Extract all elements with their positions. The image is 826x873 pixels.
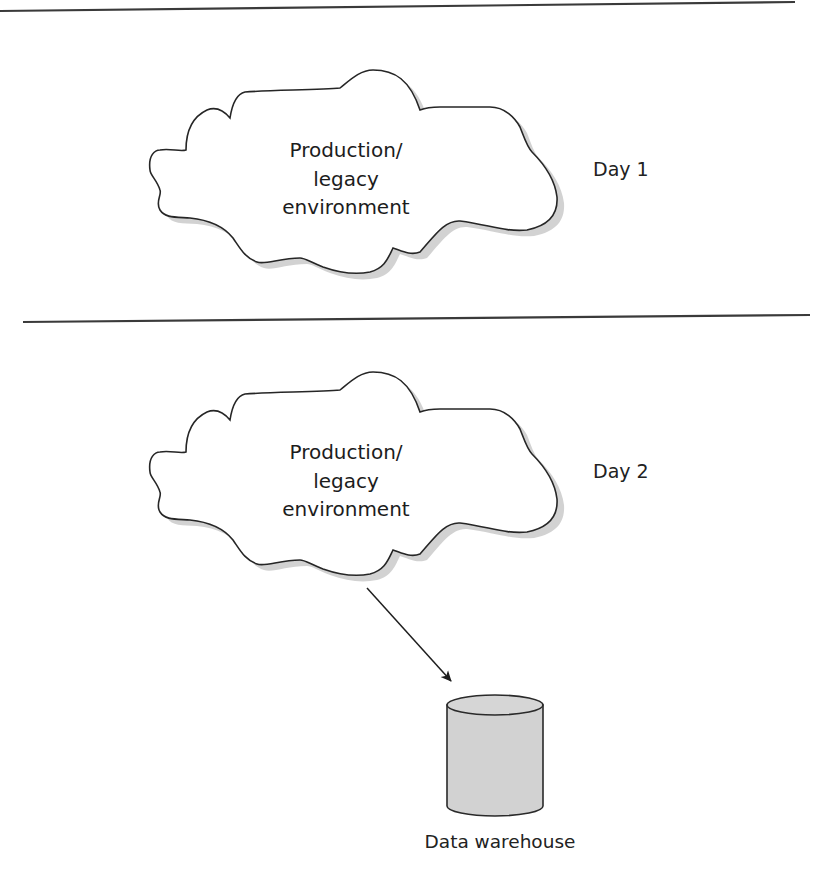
top-divider-line: [0, 2, 795, 11]
day-2-label: Day 2: [593, 460, 649, 482]
cloud-label-line: legacy: [246, 165, 446, 194]
cloud-label-line: Production/: [246, 136, 446, 165]
cloud-label-line: Production/: [246, 438, 446, 467]
cylinder-database-icon: [447, 695, 543, 816]
cloud-label-day2: Production/ legacy environment: [246, 438, 446, 524]
cloud-label-line: environment: [246, 193, 446, 222]
day-1-label: Day 1: [593, 158, 649, 180]
data-warehouse-label: Data warehouse: [400, 831, 600, 852]
arrow-to-data-warehouse: [367, 588, 451, 681]
cloud-label-line: legacy: [246, 467, 446, 496]
cloud-label-day1: Production/ legacy environment: [246, 136, 446, 222]
cloud-label-line: environment: [246, 495, 446, 524]
middle-divider-line: [23, 315, 810, 322]
diagram-canvas: [0, 0, 826, 873]
